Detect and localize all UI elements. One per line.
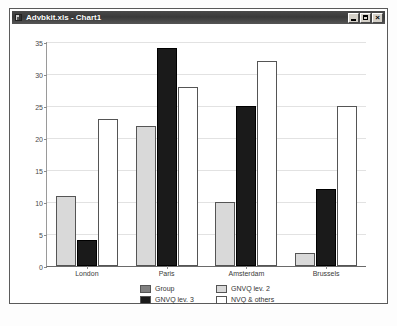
x-axis-tick-mark — [326, 266, 327, 269]
y-axis-tick-label: 5 — [39, 232, 43, 239]
y-axis-tick-label: 0 — [39, 264, 43, 271]
bar[interactable] — [77, 240, 97, 266]
excel-chart-icon — [14, 13, 23, 22]
bar-group: Amsterdam — [207, 42, 287, 266]
x-axis-tick-mark — [167, 266, 168, 269]
y-axis-tick-label: 30 — [35, 72, 43, 79]
legend-label: GNVQ lev. 3 — [155, 296, 194, 303]
bar[interactable] — [236, 106, 256, 266]
x-axis-category-label: Amsterdam — [207, 270, 287, 277]
bar-groups: LondonParisAmsterdamBrussels — [47, 42, 366, 266]
legend-swatch — [140, 296, 151, 304]
x-axis-tick-mark — [87, 266, 88, 269]
y-axis-tick-label: 35 — [35, 40, 43, 47]
y-axis-tick-label: 15 — [35, 168, 43, 175]
bar-chart[interactable]: 05101520253035 LondonParisAmsterdamBruss… — [12, 25, 385, 301]
y-axis-tick-label: 25 — [35, 104, 43, 111]
x-axis-category-label: Brussels — [286, 270, 366, 277]
legend-label: GNVQ lev. 2 — [231, 285, 270, 292]
bar[interactable] — [157, 48, 177, 266]
legend-item[interactable]: Group — [140, 285, 216, 293]
legend-swatch — [216, 285, 227, 293]
legend-swatch — [216, 296, 227, 304]
bar-group: London — [47, 42, 127, 266]
bar[interactable] — [215, 202, 235, 266]
maximize-button[interactable] — [360, 13, 371, 23]
y-axis-tick-mark — [44, 267, 47, 268]
bar[interactable] — [337, 106, 357, 266]
window-client-area[interactable]: 05101520253035 LondonParisAmsterdamBruss… — [12, 25, 385, 301]
bar[interactable] — [136, 126, 156, 266]
legend-label: NVQ & others — [231, 296, 274, 303]
bar[interactable] — [295, 253, 315, 266]
window-controls: × — [348, 13, 383, 23]
legend-swatch — [140, 285, 151, 293]
bar-group: Brussels — [286, 42, 366, 266]
gridline: 0 — [47, 266, 366, 267]
x-axis-tick-mark — [246, 266, 247, 269]
bar[interactable] — [98, 119, 118, 266]
legend-item[interactable]: NVQ & others — [216, 296, 300, 304]
legend-item[interactable]: GNVQ lev. 3 — [140, 296, 216, 304]
x-axis-category-label: Paris — [127, 270, 207, 277]
bar[interactable] — [56, 196, 76, 266]
plot-area: 05101520253035 LondonParisAmsterdamBruss… — [46, 42, 366, 267]
bar[interactable] — [178, 87, 198, 266]
window-title: Advbkit.xls - Chart1 — [26, 11, 101, 24]
y-axis-tick-label: 20 — [35, 136, 43, 143]
window-titlebar[interactable]: Advbkit.xls - Chart1 × — [12, 11, 385, 24]
bar-group: Paris — [127, 42, 207, 266]
chart-legend: GroupGNVQ lev. 2GNVQ lev. 3NVQ & others — [140, 283, 300, 305]
y-axis-tick-label: 10 — [35, 200, 43, 207]
x-axis-category-label: London — [47, 270, 127, 277]
bar[interactable] — [316, 189, 336, 266]
legend-label: Group — [155, 285, 174, 292]
legend-item[interactable]: GNVQ lev. 2 — [216, 285, 300, 293]
minimize-button[interactable] — [348, 13, 359, 23]
close-button[interactable]: × — [372, 13, 383, 23]
chart-window[interactable]: Advbkit.xls - Chart1 × 05101520253035 Lo… — [9, 8, 388, 304]
bar[interactable] — [257, 61, 277, 266]
